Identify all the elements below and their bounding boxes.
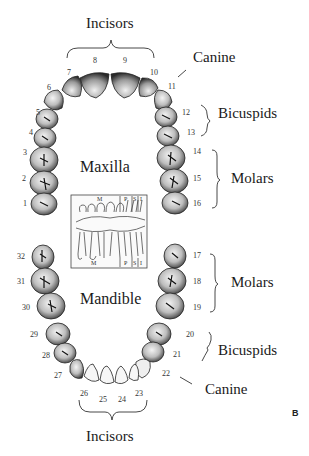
inset-label-i-bottom: I [140, 260, 142, 266]
label-bottom-incisors: Incisors [86, 428, 134, 445]
tooth-number-2: 2 [22, 174, 26, 183]
tooth-number-3: 3 [23, 148, 27, 157]
label-lower-bicuspids: Bicuspids [218, 342, 277, 359]
label-upper-molars: Molars [231, 170, 274, 187]
inset-label-p-bottom: P [124, 260, 127, 266]
inset-lateral-view [71, 195, 147, 268]
bottom-incisors-brace [79, 400, 147, 420]
lower-canine-pointer [180, 377, 192, 384]
tooth-26 [84, 364, 99, 381]
inset-label-p-top: P [124, 196, 127, 202]
tooth-number-10: 10 [150, 68, 158, 77]
tooth-number-26: 26 [80, 389, 88, 398]
tooth-number-17: 17 [193, 251, 201, 260]
tooth-number-15: 15 [193, 174, 201, 183]
tooth-number-9: 9 [123, 56, 127, 65]
upper-canine-pointer [178, 70, 186, 77]
lower-bicuspids-brace [202, 332, 211, 361]
tooth-9 [111, 73, 140, 98]
tooth-number-25: 25 [99, 395, 107, 404]
tooth-number-32: 32 [17, 252, 25, 261]
tooth-number-1: 1 [23, 199, 27, 208]
lower-molars-brace [210, 254, 218, 312]
tooth-number-7: 7 [67, 68, 71, 77]
tooth-number-21: 21 [173, 350, 181, 359]
tooth-number-19: 19 [193, 303, 201, 312]
tooth-number-23: 23 [135, 389, 143, 398]
tooth-number-20: 20 [186, 330, 194, 339]
tooth-25 [100, 366, 114, 384]
tooth-number-28: 28 [42, 351, 50, 360]
label-upper-canine: Canine [193, 49, 236, 66]
tooth-number-16: 16 [193, 199, 201, 208]
inset-label-m-bottom: M [91, 260, 96, 266]
tooth-23 [129, 364, 139, 381]
tooth-number-8: 8 [93, 56, 97, 65]
tooth-number-18: 18 [193, 277, 201, 286]
inset-label-i-top: I [140, 196, 142, 202]
tooth-24 [115, 366, 128, 384]
tooth-number-14: 14 [193, 147, 201, 156]
tooth-7 [62, 76, 82, 97]
label-lower-molars: Molars [231, 274, 274, 291]
tooth-number-12: 12 [182, 108, 190, 117]
tooth-number-30: 30 [22, 303, 30, 312]
tooth-6 [44, 90, 63, 110]
tooth-number-4: 4 [29, 128, 33, 137]
label-upper-bicuspids: Bicuspids [218, 105, 277, 122]
tooth-number-22: 22 [162, 369, 170, 378]
upper-molars-brace [212, 150, 220, 208]
label-lower-canine: Canine [205, 381, 248, 398]
tooth-number-29: 29 [30, 330, 38, 339]
tooth-number-6: 6 [47, 83, 51, 92]
inset-label-m-top: M [97, 196, 102, 202]
tooth-number-24: 24 [118, 395, 126, 404]
tooth-27 [70, 360, 84, 379]
label-maxilla: Maxilla [80, 158, 130, 176]
upper-arch [30, 73, 188, 215]
tooth-number-13: 13 [187, 128, 195, 137]
tooth-number-27: 27 [54, 371, 62, 380]
tooth-8 [80, 73, 109, 98]
tooth-32 [32, 245, 54, 269]
inset-label-s-top: S [133, 196, 136, 202]
tooth-number-11: 11 [168, 82, 176, 91]
inset-label-s-bottom: S [133, 260, 136, 266]
tooth-number-5: 5 [36, 108, 40, 117]
label-mandible: Mandible [80, 290, 141, 308]
label-top-incisors: Incisors [86, 15, 134, 32]
upper-bicuspids-brace [201, 105, 210, 136]
tooth-number-31: 31 [17, 277, 25, 286]
top-incisors-brace [67, 40, 154, 58]
panel-label: B [292, 408, 299, 418]
